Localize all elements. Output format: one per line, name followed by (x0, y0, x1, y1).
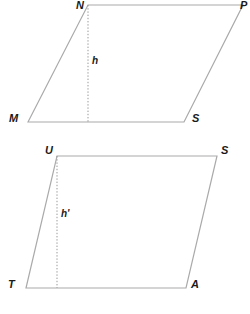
vertex-label-n: N (76, 0, 84, 11)
vertex-label-p: P (240, 0, 247, 11)
height-label-h: h (92, 55, 98, 66)
geometry-figure: M N P S h T U S A h' (0, 0, 250, 314)
vertex-label-a: A (191, 279, 199, 290)
vertex-label-u: U (45, 145, 53, 156)
height-label-h-prime: h' (61, 208, 70, 219)
vertex-label-s-top: S (192, 113, 199, 124)
parallelograms-svg (0, 0, 250, 314)
parallelogram-bottom (26, 156, 217, 288)
vertex-label-s-bottom: S (221, 145, 228, 156)
vertex-label-t: T (8, 279, 15, 290)
parallelogram-top-outline (28, 5, 243, 122)
parallelogram-bottom-outline (26, 156, 217, 288)
vertex-label-m: M (9, 113, 18, 124)
parallelogram-top (28, 5, 243, 122)
